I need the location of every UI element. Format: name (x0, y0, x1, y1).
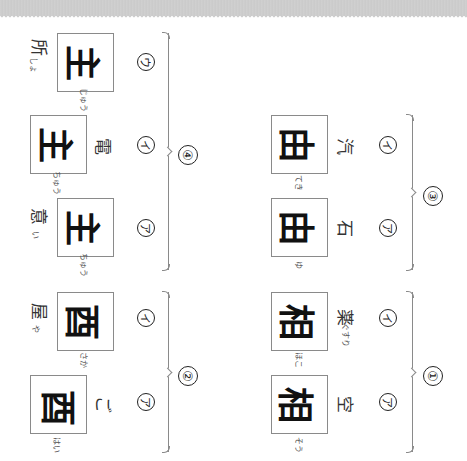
word-furigana: しょ (30, 50, 40, 80)
choice-marker: イ (137, 136, 155, 154)
furigana: ゆ (295, 235, 305, 295)
choice-marker: ア (137, 393, 155, 411)
choice-marker: ア (379, 393, 397, 411)
group-bracket (412, 115, 420, 270)
word-furigana: い (32, 220, 42, 250)
group-bracket (412, 292, 420, 452)
word-furigana: や (32, 314, 42, 344)
compound-word-char: 電 (94, 135, 116, 157)
group-number-label: ① (423, 366, 443, 386)
choice-marker: ア (379, 219, 397, 237)
choice-marker: イ (379, 309, 397, 327)
furigana: はい (53, 415, 63, 461)
furigana: ちゅう (80, 235, 90, 295)
choice-marker: イ (379, 136, 397, 154)
scanned-page-edge (0, 0, 467, 16)
group-number-label: ③ (423, 186, 443, 206)
compound-word-char: 空 (336, 393, 358, 415)
word-furigana: ぐすり (342, 320, 352, 350)
group-number-label: ④ (178, 145, 198, 165)
group-number-label: ② (178, 366, 198, 386)
choice-marker: イ (137, 309, 155, 327)
compound-word-char: ご (94, 393, 116, 415)
group-bracket (168, 33, 176, 270)
choice-marker: ウ (137, 53, 155, 71)
compound-word-char: 汽 (336, 135, 358, 157)
group-bracket (168, 292, 176, 452)
compound-word-char: 石 (336, 217, 358, 239)
choice-marker: ア (137, 219, 155, 237)
furigana: そう (295, 415, 305, 461)
